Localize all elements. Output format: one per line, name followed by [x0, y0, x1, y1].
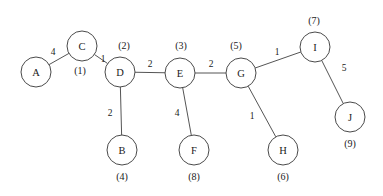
- node-label-b: B: [118, 145, 125, 156]
- node-order-label-f: (8): [188, 171, 200, 183]
- node-label-e: E: [177, 68, 183, 79]
- graph-node-j[interactable]: J: [335, 102, 365, 132]
- edge-weight-g-h: 1: [250, 111, 255, 121]
- edge-weights-layer: 412242115: [51, 47, 347, 121]
- graph-figure: ACDBEFGHIJ 412242115 (1)(2)(4)(3)(8)(5)(…: [0, 0, 383, 196]
- edge-weight-d-e: 2: [148, 59, 153, 69]
- graph-edge-e-f: [183, 88, 192, 135]
- node-order-label-j: (9): [344, 138, 356, 150]
- node-label-g: G: [237, 68, 245, 79]
- edge-weight-c-d: 1: [101, 54, 106, 64]
- edge-weight-a-c: 4: [51, 47, 56, 57]
- graph-canvas: ACDBEFGHIJ 412242115 (1)(2)(4)(3)(8)(5)(…: [0, 0, 383, 196]
- graph-edge-d-b: [120, 87, 121, 135]
- graph-node-a[interactable]: A: [21, 57, 51, 87]
- edge-weight-e-g: 2: [209, 59, 214, 69]
- graph-node-c[interactable]: C: [67, 31, 97, 61]
- node-order-label-g: (5): [230, 40, 242, 52]
- edge-weight-g-i: 1: [275, 47, 280, 57]
- node-label-d: D: [116, 67, 124, 78]
- nodes-layer: ACDBEFGHIJ: [21, 31, 365, 165]
- edges-layer: [49, 52, 343, 137]
- node-label-c: C: [78, 41, 85, 52]
- graph-node-g[interactable]: G: [226, 58, 256, 88]
- node-order-label-e: (3): [175, 40, 187, 52]
- graph-edge-d-e: [135, 72, 165, 73]
- graph-node-e[interactable]: E: [165, 58, 195, 88]
- node-label-i: I: [313, 42, 317, 53]
- graph-node-d[interactable]: D: [105, 57, 135, 87]
- graph-node-b[interactable]: B: [107, 135, 137, 165]
- node-label-h: H: [279, 145, 287, 156]
- graph-node-i[interactable]: I: [300, 32, 330, 62]
- node-order-label-i: (7): [308, 15, 320, 27]
- node-label-f: F: [191, 145, 197, 156]
- graph-node-h[interactable]: H: [268, 135, 298, 165]
- graph-edge-i-j: [322, 60, 344, 103]
- node-order-label-d: (2): [118, 40, 130, 52]
- graph-node-f[interactable]: F: [179, 135, 209, 165]
- node-label-a: A: [32, 67, 40, 78]
- node-order-label-h: (6): [277, 171, 289, 183]
- edge-weight-i-j: 5: [342, 63, 347, 73]
- node-order-label-b: (4): [116, 171, 128, 183]
- edge-weight-e-f: 4: [175, 108, 180, 118]
- node-label-j: J: [348, 112, 352, 123]
- edge-weight-d-b: 2: [108, 108, 113, 118]
- node-order-label-c: (1): [74, 65, 86, 77]
